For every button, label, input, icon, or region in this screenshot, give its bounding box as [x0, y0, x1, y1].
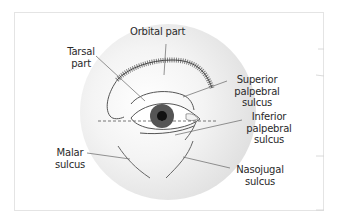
label-malar-line2: sulcus [52, 159, 88, 171]
label-malar-sulcus: Malar sulcus [52, 147, 88, 170]
label-tarsal-line1: Tarsal [64, 46, 98, 58]
label-nasojugal-line1: Nasojugal [232, 164, 288, 176]
label-inferior-line3: sulcus [240, 134, 298, 146]
diagram-stage: Orbital part Tarsal part Superior palpeb… [0, 0, 338, 221]
label-superior-palpebral-sulcus: Superior palpebral sulcus [228, 74, 286, 109]
label-inferior-palpebral-sulcus: Inferior palpebral sulcus [240, 111, 298, 146]
frame-tick-marks [316, 49, 324, 210]
label-orbital-part: Orbital part [130, 26, 185, 38]
label-malar-line1: Malar [52, 147, 88, 159]
label-nasojugal-line2: sulcus [232, 176, 288, 188]
label-inferior-line2: palpebral [240, 123, 298, 135]
label-inferior-line1: Inferior [240, 111, 298, 123]
label-superior-line2: palpebral [228, 86, 286, 98]
pupil [157, 111, 167, 121]
label-tarsal-line2: part [64, 58, 98, 70]
label-nasojugal-sulcus: Nasojugal sulcus [232, 164, 288, 187]
label-orbital-part-text: Orbital part [130, 26, 185, 37]
label-superior-line1: Superior [228, 74, 286, 86]
label-superior-line3: sulcus [228, 97, 286, 109]
label-tarsal-part: Tarsal part [64, 46, 98, 69]
